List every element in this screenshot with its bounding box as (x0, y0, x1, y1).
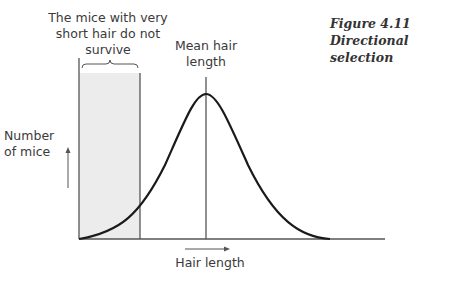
figure-number: Figure 4.11 (330, 15, 454, 32)
figure-title: Directional selection (330, 32, 454, 66)
y-axis-line-2: of mice (4, 144, 62, 160)
mean-line-1: Mean hair (166, 38, 246, 54)
brace-icon (82, 60, 138, 68)
excluded-line-3: survive (48, 42, 168, 58)
mean-label: Mean hair length (166, 38, 246, 70)
y-arrowhead-icon (66, 147, 71, 153)
excluded-region-label: The mice with very short hair do not sur… (48, 10, 168, 58)
y-axis-label: Number of mice (4, 128, 62, 160)
mean-line-2: length (166, 54, 246, 70)
excluded-line-2: short hair do not (48, 26, 168, 42)
y-axis-line-1: Number (4, 128, 62, 144)
x-arrowhead-icon (224, 247, 230, 252)
figure-caption: Figure 4.11 Directional selection (330, 15, 454, 66)
excluded-line-1: The mice with very (48, 10, 168, 26)
x-axis-label: Hair length (170, 255, 250, 271)
